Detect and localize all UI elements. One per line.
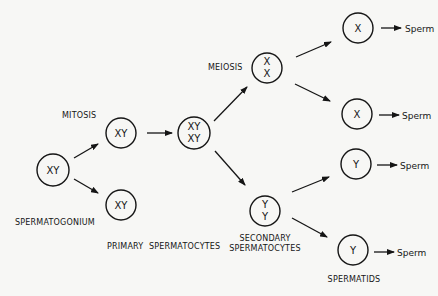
arrow-mitosis-up: [74, 144, 98, 158]
label-secondary-line2: SPERMATOCYTES: [229, 244, 300, 253]
arrow-meiosis-up: [214, 87, 247, 121]
label-spermatids: SPERMATIDS: [328, 275, 381, 284]
arrow-mitosis-down: [74, 179, 98, 193]
arrow-secondary-y-up: [292, 177, 329, 192]
cell-spermatid-3-chromosome: Y: [352, 159, 360, 170]
cell-spermatid-4: Y: [338, 235, 368, 265]
cell-spermatogonium-chromosomes: XY: [47, 165, 61, 176]
sperm-label-2: Sperm: [402, 111, 431, 121]
arrow-meiosis-down: [215, 151, 245, 185]
label-mitosis: MITOSIS: [62, 111, 96, 120]
cell-primary-top: XY: [106, 118, 136, 148]
arrow-secondary-x-down: [295, 84, 330, 101]
arrow-secondary-x-up: [296, 42, 331, 57]
cell-secondary-y-line2: Y: [261, 211, 269, 222]
cell-primary-bottom: XY: [106, 190, 136, 220]
cell-primary-top-chromosomes: XY: [115, 128, 129, 139]
cell-secondary-x-line2: X: [264, 68, 271, 79]
cell-secondary-x: X X: [252, 53, 282, 83]
cell-spermatid-1: X: [343, 13, 373, 43]
cell-secondary-y: Y Y: [250, 196, 280, 226]
cell-secondary-x-line1: X: [264, 56, 271, 67]
cell-primary-replicated-line2: XY: [188, 133, 202, 144]
cell-secondary-y-line1: Y: [261, 199, 269, 210]
cell-primary-replicated: XY XY: [178, 117, 210, 149]
sperm-label-3: Sperm: [400, 161, 429, 171]
sperm-label-1: Sperm: [405, 24, 434, 34]
cell-spermatid-2-chromosome: X: [354, 109, 361, 120]
cell-primary-replicated-line1: XY: [188, 121, 202, 132]
cell-spermatogonium: XY: [37, 154, 69, 186]
label-meiosis: MEIOSIS: [208, 63, 243, 72]
label-primary-spermatocytes: PRIMARY SPERMATOCYTES: [107, 242, 220, 251]
sperm-label-4: Sperm: [397, 248, 426, 258]
cell-primary-bottom-chromosomes: XY: [115, 200, 129, 211]
arrow-secondary-y-down: [292, 218, 327, 237]
label-spermatogonium: SPERMATOGONIUM: [15, 218, 95, 227]
cell-spermatid-4-chromosome: Y: [349, 245, 357, 256]
cell-spermatid-2: X: [342, 99, 372, 129]
cell-spermatid-3: Y: [341, 149, 371, 179]
cell-spermatid-1-chromosome: X: [355, 23, 362, 34]
spermatogenesis-diagram: XY XY XY XY XY X X Y Y X: [0, 0, 438, 296]
label-secondary-line1: SECONDARY: [239, 234, 290, 243]
